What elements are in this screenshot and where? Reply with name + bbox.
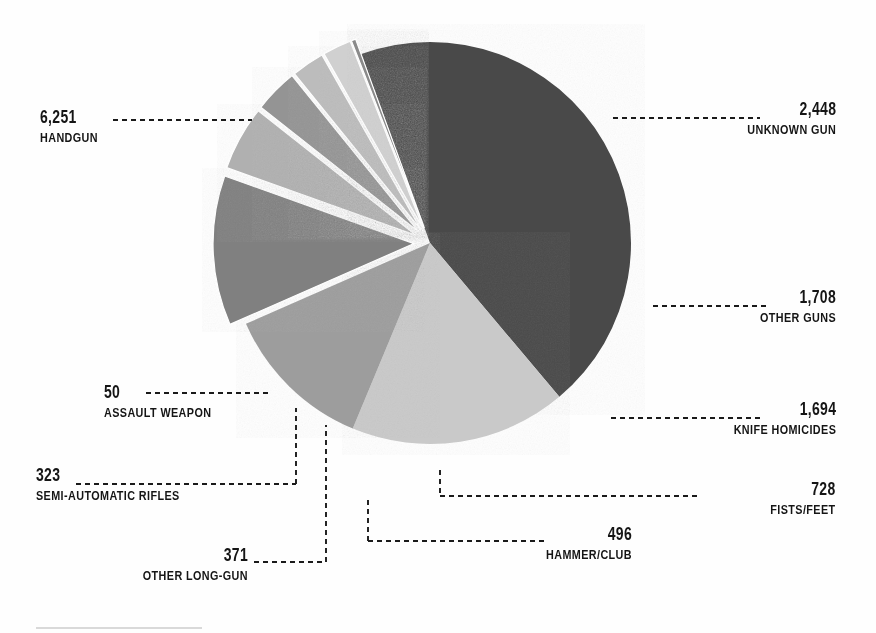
label-semi-automatic-rifles-name: SEMI-AUTOMATIC RIFLES <box>36 489 180 504</box>
label-assault-weapon: 50 ASSAULT WEAPON <box>104 383 238 420</box>
label-handgun: 6,251 HANDGUN <box>40 108 113 145</box>
label-knife-homicides-name: KNIFE HOMICIDES <box>733 423 836 438</box>
label-assault-weapon-name: ASSAULT WEAPON <box>104 406 211 421</box>
label-handgun-value: 6,251 <box>40 108 98 127</box>
label-fists-feet-value: 728 <box>771 480 836 499</box>
label-hammer-club: 496 HAMMER/CLUB <box>468 525 632 562</box>
chart-stage: 6,251 HANDGUN 2,448 UNKNOWN GUN 1,708 OT… <box>0 0 876 633</box>
label-handgun-name: HANDGUN <box>40 131 98 146</box>
label-unknown-gun: 2,448 UNKNOWN GUN <box>725 100 836 137</box>
label-semi-automatic-rifles: 323 SEMI-AUTOMATIC RIFLES <box>36 466 216 503</box>
label-other-guns-name: OTHER GUNS <box>760 311 836 326</box>
label-knife-homicides-value: 1,694 <box>733 400 836 419</box>
label-semi-automatic-rifles-value: 323 <box>36 466 180 485</box>
label-unknown-gun-name: UNKNOWN GUN <box>747 123 836 138</box>
label-knife-homicides: 1,694 KNIFE HOMICIDES <box>708 400 836 437</box>
footer-rule <box>36 627 202 629</box>
label-other-guns: 1,708 OTHER GUNS <box>741 288 836 325</box>
label-other-long-gun-value: 371 <box>117 546 248 565</box>
label-fists-feet-name: FISTS/FEET <box>771 503 836 518</box>
label-hammer-club-value: 496 <box>501 525 632 544</box>
label-other-long-gun-name: OTHER LONG-GUN <box>117 569 248 584</box>
label-unknown-gun-value: 2,448 <box>747 100 836 119</box>
label-hammer-club-name: HAMMER/CLUB <box>501 548 632 563</box>
label-other-long-gun: 371 OTHER LONG-GUN <box>84 546 248 583</box>
label-assault-weapon-value: 50 <box>104 383 211 402</box>
label-other-guns-value: 1,708 <box>760 288 836 307</box>
pie-slices <box>213 39 631 444</box>
label-fists-feet: 728 FISTS/FEET <box>754 480 836 517</box>
